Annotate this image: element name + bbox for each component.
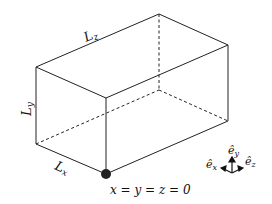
label-ex: êx	[206, 158, 218, 172]
arrow-ez-icon	[238, 166, 243, 171]
top-face	[36, 14, 228, 98]
origin-dot	[101, 169, 111, 179]
label-ez: êz	[245, 155, 257, 169]
label-lz: Lz	[80, 26, 100, 46]
label-ly: Ly	[19, 101, 35, 117]
arrow-ex-icon	[221, 166, 226, 171]
axis-triad	[221, 157, 243, 173]
label-ey: êy	[228, 144, 240, 158]
label-lx: Lx	[52, 158, 72, 178]
origin-label: x = y = z = 0	[110, 183, 191, 197]
edge-bottom-left	[36, 144, 106, 174]
box-diagram: Lz Ly Lx x = y = z = 0 êy êx êz	[0, 0, 272, 204]
hidden-edge-left	[36, 90, 159, 144]
hidden-edge-right	[159, 90, 228, 121]
